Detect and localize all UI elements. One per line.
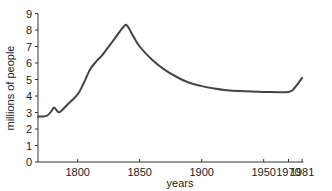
y-tick-label: 6	[26, 57, 32, 69]
y-tick-label: 9	[26, 8, 32, 20]
x-axis: 180018501900195019701981	[38, 159, 314, 178]
y-tick-label: 1	[26, 140, 32, 152]
y-tick-label: 3	[26, 107, 32, 119]
x-axis-label: years	[167, 177, 194, 189]
x-tick-label: 1981	[290, 166, 314, 178]
population-line-chart: 0123456789 180018501900195019701981 mill…	[0, 0, 332, 191]
y-axis: 0123456789	[26, 8, 38, 169]
x-tick-label: 1800	[65, 166, 89, 178]
y-tick-label: 2	[26, 123, 32, 135]
y-tick-label: 8	[26, 24, 32, 36]
y-tick-label: 0	[26, 156, 32, 168]
y-axis-label: millions of people	[4, 46, 16, 131]
y-tick-label: 7	[26, 41, 32, 53]
y-tick-label: 4	[26, 90, 32, 102]
x-tick-label: 1850	[127, 166, 151, 178]
population-line	[38, 25, 302, 117]
y-tick-label: 5	[26, 74, 32, 86]
x-tick-label: 1950	[251, 166, 275, 178]
